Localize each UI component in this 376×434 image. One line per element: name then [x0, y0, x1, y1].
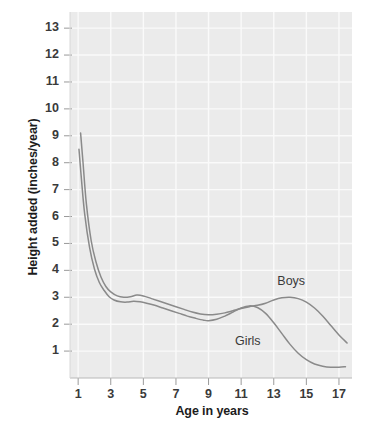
- x-axis-title: Age in years: [70, 404, 354, 418]
- x-axis-tick-marks: [78, 378, 339, 385]
- y-tick-label: 1: [33, 343, 59, 357]
- y-axis-title: Height added (inches/year): [26, 72, 40, 322]
- x-tick-label: 11: [229, 387, 253, 401]
- x-tick-label: 15: [294, 387, 318, 401]
- x-tick-label: 17: [327, 387, 351, 401]
- plot-area-background: [70, 12, 352, 378]
- y-tick-label: 13: [33, 20, 59, 34]
- series-label-girls: Girls: [235, 334, 261, 348]
- x-tick-label: 3: [99, 387, 123, 401]
- x-tick-label: 5: [131, 387, 155, 401]
- x-tick-label: 13: [262, 387, 286, 401]
- y-tick-label: 12: [33, 47, 59, 61]
- x-tick-label: 7: [164, 387, 188, 401]
- series-label-boys: Boys: [277, 274, 305, 288]
- x-tick-label: 9: [197, 387, 221, 401]
- growth-rate-line-chart: 12345678910111213 1357911131517 BoysGirl…: [0, 0, 376, 434]
- x-tick-label: 1: [66, 387, 90, 401]
